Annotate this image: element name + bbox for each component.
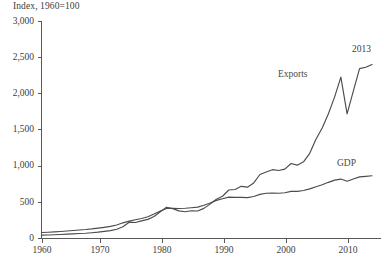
x-tick-marks: [43, 239, 349, 244]
y-tick-marks: [38, 22, 42, 239]
chart-container: Index, 1960=100 3,000 2,500 2,000 1,500 …: [0, 0, 384, 262]
gdp-data-line: [42, 176, 372, 233]
plot-area: [0, 0, 384, 262]
exports-data-line: [42, 64, 372, 235]
